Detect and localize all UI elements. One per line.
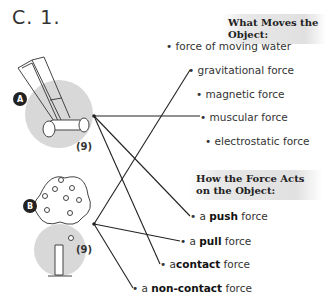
badge-b: B bbox=[23, 199, 37, 213]
illustrations bbox=[0, 0, 326, 295]
line-b-pull bbox=[94, 224, 180, 241]
connection-lines bbox=[94, 70, 200, 288]
badge-a: A bbox=[13, 92, 27, 106]
lawn-mower-icon bbox=[18, 57, 89, 137]
score-b: (9) bbox=[76, 244, 92, 255]
line-a-contact bbox=[94, 116, 160, 264]
score-a: (9) bbox=[76, 141, 92, 152]
apple-tree-icon bbox=[34, 177, 90, 276]
line-b-non-contact bbox=[94, 224, 133, 288]
